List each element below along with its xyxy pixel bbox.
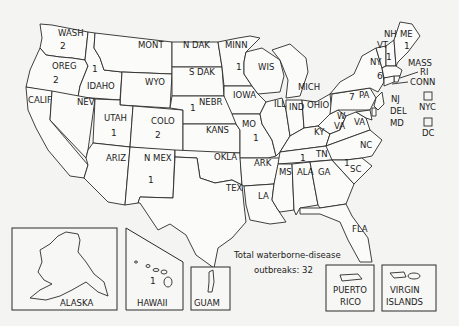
state-ny — [330, 48, 384, 94]
label-vt: VT — [377, 40, 389, 50]
state-utah — [93, 99, 133, 147]
label-wash: WASH — [58, 28, 84, 38]
label-kans: KANS — [206, 125, 229, 135]
state-nj — [374, 92, 384, 110]
label-ga: GA — [318, 167, 331, 177]
label-nev: NEV — [77, 97, 95, 107]
label-mo: MO — [242, 119, 256, 129]
label-dc: DC — [422, 128, 435, 138]
count-colo: 2 — [155, 130, 161, 140]
label-pa: PA — [359, 90, 370, 100]
label-me: ME — [400, 29, 413, 39]
label-tn: TN — [315, 149, 328, 159]
label-wva-w: W — [337, 111, 346, 121]
state-conn — [384, 76, 394, 86]
count-mo: 1 — [253, 133, 259, 143]
inset-puerto-rico: PUERTO RICO — [326, 265, 374, 311]
label-idaho: IDAHO — [87, 81, 115, 91]
label-nyc: NYC — [419, 102, 436, 112]
label-ariz: ARIZ — [106, 153, 126, 163]
count-tn: 1 — [300, 153, 306, 163]
label-ind: IND — [289, 102, 305, 112]
label-tex: TEX — [225, 183, 243, 193]
total-note-line2: outbreaks: 32 — [254, 265, 313, 275]
label-wyo: WYO — [145, 77, 165, 87]
label-ohio: OHIO — [307, 100, 330, 110]
label-ark: ARK — [254, 158, 272, 168]
label-rico: RICO — [340, 297, 361, 307]
label-iowa: IOWA — [233, 90, 256, 100]
label-guam: GUAM — [194, 298, 220, 308]
dc-box — [424, 118, 432, 126]
label-virgin: VIRGIN — [390, 285, 420, 295]
label-okla: OKLA — [214, 152, 237, 162]
label-fla: FLA — [352, 224, 368, 234]
label-colo: COLO — [151, 116, 175, 126]
inset-guam: GUAM — [191, 267, 230, 310]
state-colo — [130, 106, 183, 152]
label-mont: MONT — [138, 40, 164, 50]
label-ky: KY — [314, 127, 325, 137]
label-nmex: N MEX — [144, 153, 172, 163]
label-puerto: PUERTO — [333, 285, 367, 295]
label-nc: NC — [360, 140, 372, 150]
state-del — [372, 108, 376, 116]
count-minn: 1 — [236, 62, 242, 72]
label-del: DEL — [390, 106, 407, 116]
label-nebr: NEBR — [199, 97, 223, 107]
count-ny: 6 — [377, 71, 383, 81]
count-sc: 1 — [344, 158, 350, 168]
label-ndak: N DAK — [183, 40, 210, 50]
label-mich: MICH — [298, 82, 320, 92]
count-me: 1 — [404, 41, 410, 51]
label-la: LA — [258, 191, 269, 201]
label-wis: WIS — [258, 62, 274, 72]
label-alaska: ALASKA — [60, 298, 93, 308]
label-nh: NH — [384, 29, 397, 39]
nyc-box — [424, 92, 432, 100]
state-ri — [394, 76, 400, 82]
label-ms: MS — [279, 167, 292, 177]
count-pa: 7 — [349, 92, 355, 102]
label-ny: NY — [370, 57, 382, 67]
label-ala: ALA — [297, 167, 314, 177]
label-va: VA — [354, 117, 365, 127]
inset-virgin-islands: VIRGIN ISLANDS — [382, 265, 436, 311]
label-islands: ISLANDS — [386, 297, 423, 307]
inset-alaska: ALASKA — [12, 228, 117, 310]
count-nmex: 1 — [148, 175, 154, 185]
label-utah: UTAH — [104, 113, 127, 123]
label-sc: SC — [350, 164, 361, 174]
label-calif: CALIF — [28, 95, 52, 105]
label-md: MD — [390, 118, 404, 128]
label-minn: MINN — [225, 40, 248, 50]
count-idaho: 1 — [92, 64, 98, 74]
count-vt: 1 — [386, 52, 392, 62]
count-nebr: 1 — [190, 103, 196, 113]
count-oreg: 2 — [53, 75, 59, 85]
label-ri: RI — [420, 67, 428, 77]
inset-hawaii: 1 HAWAII — [126, 228, 183, 310]
label-ill: ILL — [274, 99, 286, 109]
count-utah: 1 — [111, 128, 117, 138]
label-wva-va: VA — [334, 121, 345, 131]
us-outbreak-map: WASH 2 OREG 2 1 IDAHO MONT N DAK MINN 1 … — [0, 0, 459, 326]
count-wash: 2 — [60, 41, 66, 51]
label-oreg: OREG — [52, 61, 77, 71]
label-hawaii: HAWAII — [137, 298, 168, 308]
label-conn: CONN — [410, 77, 435, 87]
label-nj: NJ — [391, 94, 400, 104]
total-note-line1: Total waterborne-disease — [233, 250, 341, 260]
label-sdak: S DAK — [189, 67, 215, 77]
count-hawaii: 1 — [150, 276, 156, 286]
